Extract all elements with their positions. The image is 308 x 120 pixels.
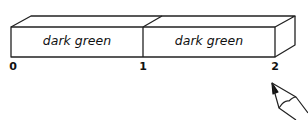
tick-label-0: 0 xyxy=(9,60,17,73)
pencil-icon xyxy=(272,83,308,120)
segment-label-2: dark green xyxy=(175,33,243,48)
rod-diagram xyxy=(0,0,308,120)
segment-divider-top xyxy=(143,16,162,27)
tick-label-1: 1 xyxy=(139,60,147,73)
segment-label-1: dark green xyxy=(43,33,111,48)
tick-label-2: 2 xyxy=(271,60,279,73)
